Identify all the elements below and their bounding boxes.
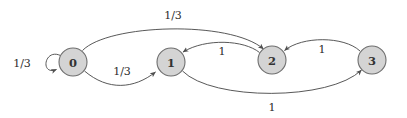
node-2-label: 2 [268, 54, 276, 68]
edge-2-to-1: 1 [183, 42, 260, 57]
state-transition-diagram: 1/3 1/3 1/3 1 1 1 0 [0, 0, 407, 118]
edge-label-3-2: 1 [319, 43, 326, 56]
edge-label-0-2: 1/3 [164, 9, 182, 22]
edge-label-0-0: 1/3 [13, 57, 31, 70]
node-0[interactable]: 0 [59, 48, 87, 76]
edge-0-to-1: 1/3 [85, 65, 156, 86]
edge-path-0-0 [46, 54, 61, 70]
node-3[interactable]: 3 [358, 46, 386, 74]
node-1[interactable]: 1 [157, 48, 185, 76]
edge-3-to-2: 1 [285, 40, 361, 56]
edge-1-to-3: 1 [183, 70, 362, 114]
edge-0-to-0: 1/3 [13, 54, 60, 70]
edge-path-0-2 [83, 29, 264, 51]
graph-canvas: 1/3 1/3 1/3 1 1 1 0 [0, 0, 407, 118]
edge-label-1-3: 1 [269, 101, 276, 114]
node-0-label: 0 [69, 56, 77, 70]
edge-label-2-1: 1 [219, 45, 226, 58]
edge-label-0-1: 1/3 [113, 65, 131, 78]
node-2[interactable]: 2 [258, 46, 286, 74]
edge-0-to-2: 1/3 [83, 9, 264, 51]
node-3-label: 3 [368, 54, 376, 68]
node-1-label: 1 [167, 56, 175, 70]
